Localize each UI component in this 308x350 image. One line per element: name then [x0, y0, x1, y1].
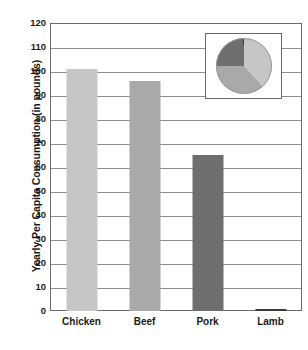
y-axis-tick-label: 10: [6, 282, 46, 292]
gridline: [51, 240, 301, 241]
y-axis-tick-label: 80: [6, 114, 46, 124]
x-axis-tick-label: Lamb: [239, 316, 302, 327]
y-axis-tick-label: 60: [6, 162, 46, 172]
y-axis-tick-label: 90: [6, 90, 46, 100]
gridline: [51, 168, 301, 169]
y-axis-tick-label: 40: [6, 210, 46, 220]
y-axis-tick-label: 100: [6, 66, 46, 76]
pie-chart-inset: [205, 33, 282, 99]
y-axis-tick-label: 70: [6, 138, 46, 148]
gridline: [51, 192, 301, 193]
x-axis-tick-label: Beef: [113, 316, 176, 327]
y-axis-tick-label: 120: [6, 18, 46, 28]
y-axis-tick-label: 50: [6, 186, 46, 196]
pie-outline: [216, 38, 272, 94]
y-axis-tick-label: 0: [6, 306, 46, 316]
gridline: [51, 288, 301, 289]
pie-graphic: [216, 38, 272, 94]
y-axis-tick-label: 30: [6, 234, 46, 244]
y-axis-tick-label: 20: [6, 258, 46, 268]
gridline: [51, 264, 301, 265]
gridline: [51, 144, 301, 145]
bar-chart-figure: Yearly Per Capita Consumption (in pounds…: [0, 0, 308, 350]
gridline: [51, 120, 301, 121]
x-axis-tick-label: Pork: [176, 316, 239, 327]
x-axis-tick-label: Chicken: [50, 316, 113, 327]
y-axis-tick-label: 110: [6, 42, 46, 52]
gridline: [51, 216, 301, 217]
